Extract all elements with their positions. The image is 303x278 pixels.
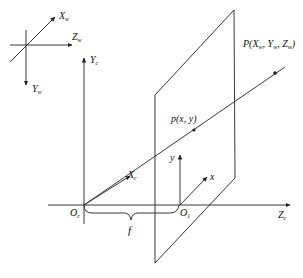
image-point-marker (192, 128, 195, 131)
world-point-marker (273, 71, 277, 75)
world-x-axis (10, 17, 55, 62)
projection-ray (84, 67, 285, 205)
world-y-label: Yw (32, 83, 42, 95)
focal-length-brace (84, 205, 179, 220)
world-point-label: P(Xw, Yw, Zw) (242, 38, 296, 50)
image-y-label: y (169, 152, 175, 163)
pinhole-camera-diagram: Xw Zw Yw Yc Zc Xc Oc y x O1 f p(x, y) (0, 0, 303, 278)
image-x-axis (180, 177, 207, 205)
camera-z-label: Zc (278, 209, 287, 221)
image-x-label: x (209, 171, 215, 182)
world-x-label: Xw (58, 10, 69, 22)
image-point-label: p(x, y) (170, 113, 197, 125)
camera-x-label: Xc (127, 169, 137, 181)
camera-y-label: Yc (90, 54, 99, 66)
focal-length-label: f (128, 224, 133, 236)
world-coordinate-system (10, 17, 72, 85)
image-origin-label: O1 (180, 207, 190, 219)
world-z-label: Zw (72, 31, 82, 43)
camera-origin-label: Oc (70, 207, 80, 219)
image-plane (155, 10, 235, 263)
